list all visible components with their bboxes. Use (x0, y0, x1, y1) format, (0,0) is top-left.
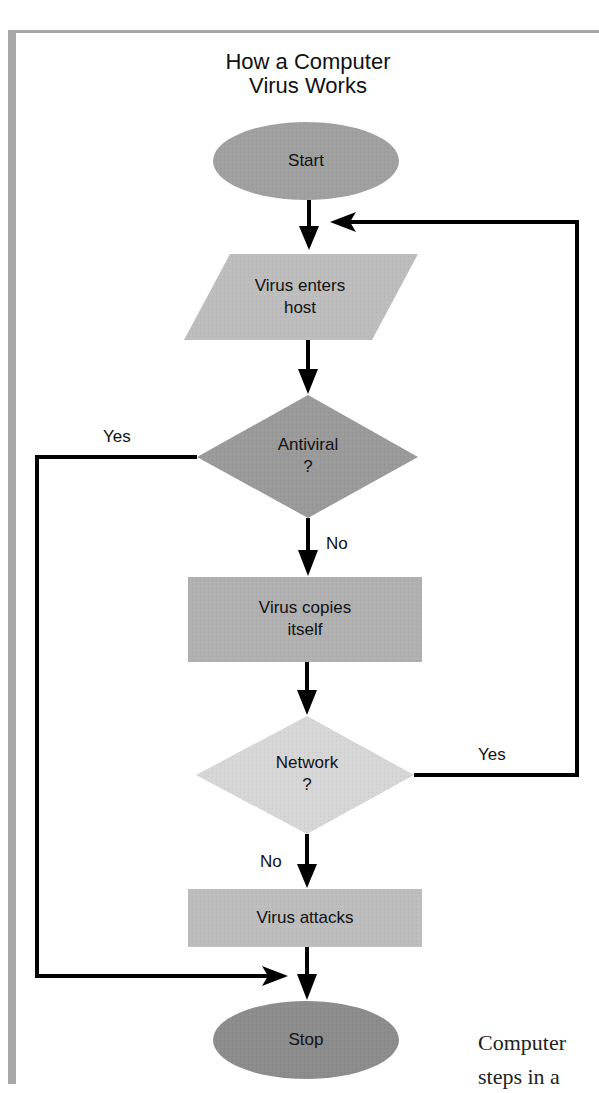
antiviral-label-line-1: Antiviral (208, 434, 408, 456)
body-text-line-2: steps in a (478, 1060, 599, 1093)
antiviral-label: Antiviral ? (208, 434, 408, 478)
virus-enters-label-line-1: Virus enters (200, 275, 400, 297)
antiviral-label-line-2: ? (208, 456, 408, 478)
virus-attacks-label: Virus attacks (188, 907, 422, 929)
virus-copies-label-line-1: Virus copies (188, 597, 422, 619)
virus-enters-label: Virus enters host (200, 275, 400, 319)
arrow-network-no-to-attacks (297, 834, 317, 888)
title-line-2: Virus Works (150, 74, 466, 98)
arrow-attacks-to-stop (297, 947, 317, 1000)
network-label-line-1: Network (207, 752, 407, 774)
title-line-1: How a Computer (150, 50, 466, 74)
network-label-line-2: ? (207, 774, 407, 796)
network-yes-label: Yes (478, 745, 506, 765)
body-text-line-1: Computer (478, 1026, 599, 1060)
arrow-enters-to-antiviral (298, 340, 318, 394)
stop-label: Stop (213, 1029, 399, 1051)
arrow-copies-to-network (297, 662, 317, 715)
arrow-antiviral-no-to-copies (298, 518, 318, 576)
network-label: Network ? (207, 752, 407, 796)
page-body-text: Computer steps in a (478, 1026, 599, 1093)
virus-copies-label: Virus copies itself (188, 597, 422, 641)
network-no-label: No (260, 852, 282, 872)
antiviral-yes-label: Yes (103, 427, 131, 447)
antiviral-no-label: No (326, 534, 348, 554)
virus-copies-label-line-2: itself (188, 619, 422, 641)
virus-enters-label-line-2: host (200, 297, 400, 319)
arrow-start-to-enters (299, 200, 319, 250)
diagram-title: How a Computer Virus Works (150, 50, 466, 98)
start-label: Start (213, 150, 399, 172)
